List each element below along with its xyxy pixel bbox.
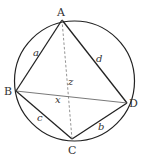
circumscribed-circle [15,21,135,141]
point-label-c: C [68,144,76,157]
side-label-b: b [98,121,104,132]
point-label-d: D [129,97,138,110]
diagonal-bd [16,91,127,103]
point-label-a: A [56,6,66,19]
cyclic-quadrilateral-diagram: A B C D a d c b x z [0,0,147,157]
diagonal-label-x: x [55,94,61,105]
side-ad [62,20,127,103]
diagonal-label-z: z [67,76,74,87]
side-ab [16,20,62,91]
point-label-b: B [4,85,12,98]
side-label-d: d [96,53,102,64]
side-label-c: c [37,112,43,123]
side-label-a: a [33,47,39,58]
